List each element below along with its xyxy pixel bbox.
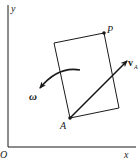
- velocity-vector-a: v A: [70, 57, 138, 118]
- omega-arc-arrow: [40, 69, 80, 88]
- velocity-label-sub: A: [133, 64, 138, 70]
- x-axis-label: x: [123, 149, 129, 160]
- point-a-label: A: [59, 120, 67, 131]
- point-p-label: P: [106, 24, 113, 35]
- point-p: P: [102, 24, 113, 35]
- point-p-dot: [102, 31, 106, 35]
- velocity-label-main: v: [128, 57, 133, 68]
- y-axis-label: y: [10, 3, 16, 14]
- point-a: A: [59, 116, 72, 131]
- rigid-body-rectangle: [54, 33, 119, 118]
- rigid-body-diagram: y O x ω v A P A: [0, 0, 140, 161]
- angular-velocity: ω: [29, 69, 80, 102]
- origin-label: O: [0, 149, 7, 160]
- coordinate-axes: y O x: [0, 3, 136, 160]
- omega-label: ω: [29, 90, 37, 102]
- point-a-dot: [68, 116, 72, 120]
